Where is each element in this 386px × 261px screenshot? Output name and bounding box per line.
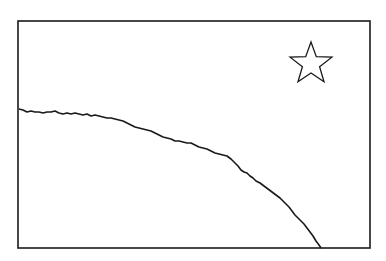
frame-border	[18, 21, 370, 248]
horizon-curve	[19, 109, 321, 248]
star-icon	[290, 42, 332, 82]
line-drawing	[0, 0, 386, 261]
